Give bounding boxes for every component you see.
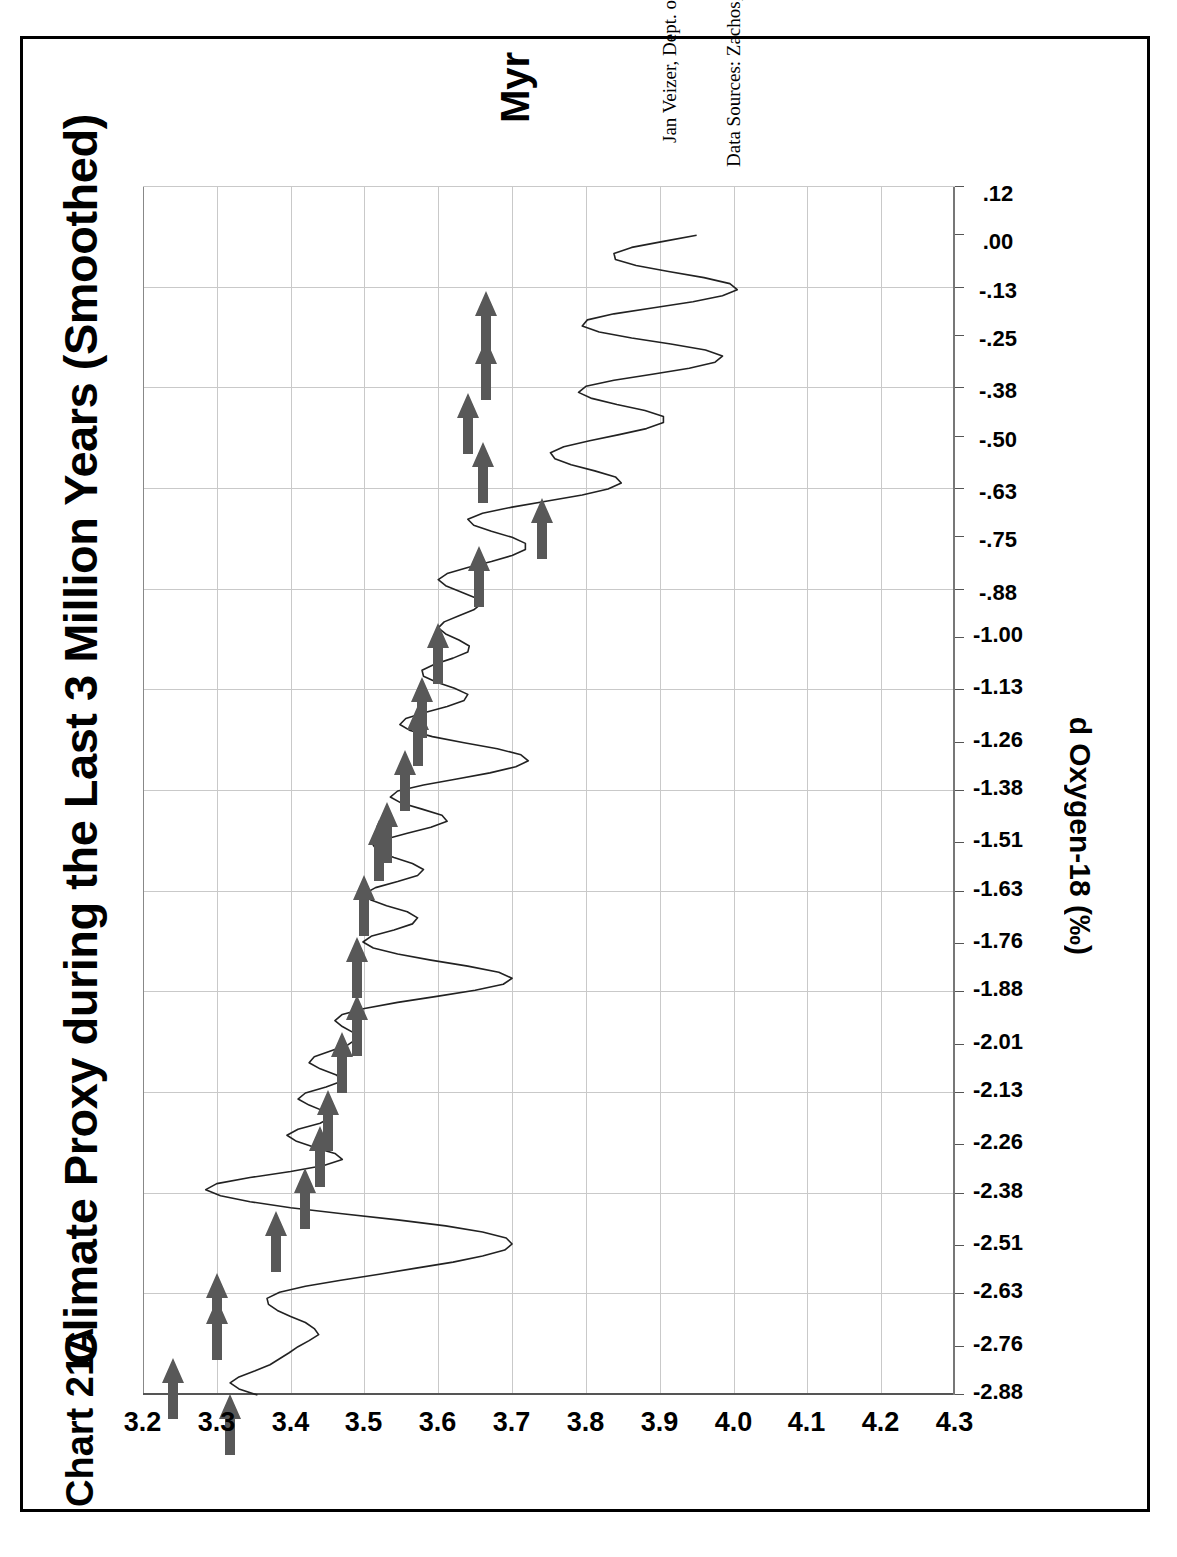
y-tick-label-7: 3.9 [640, 1407, 678, 1438]
y-tick-label-10: 4.2 [862, 1407, 900, 1438]
x-tick-mark-23 [955, 234, 964, 235]
y-tick-label-8: 4.0 [714, 1407, 752, 1438]
x-tick-mark-7 [955, 1044, 964, 1045]
x-tick-label-6: -2.13 [973, 1077, 1023, 1103]
glacial-maximum-arrow-icon [353, 874, 379, 936]
glacial-maximum-arrow-icon [206, 1272, 232, 1334]
chart-outer-frame: Chart 21A Climate Proxy during the Last … [20, 36, 1150, 1512]
plot-area [143, 187, 955, 1395]
y-tick-label-3: 3.5 [345, 1407, 383, 1438]
x-tick-label-13: -1.26 [973, 727, 1023, 753]
x-tick-mark-1 [955, 1346, 964, 1347]
x-tick-label-16: -.88 [979, 580, 1017, 606]
x-tick-label-8: -1.88 [973, 976, 1023, 1002]
x-tick-mark-8 [955, 991, 964, 992]
x-tick-mark-16 [955, 589, 964, 590]
x-tick-mark-0 [955, 1394, 964, 1395]
x-tick-label-3: -2.51 [973, 1230, 1023, 1256]
x-tick-label-10: -1.63 [973, 876, 1023, 902]
x-tick-mark-11 [955, 842, 964, 843]
glacial-maximum-arrow-icon [346, 936, 372, 998]
x-tick-label-23: .00 [983, 229, 1014, 255]
rotated-chart-canvas: Chart 21A Climate Proxy during the Last … [23, 39, 1147, 1515]
x-tick-mark-6 [955, 1092, 964, 1093]
x-tick-label-18: -.63 [979, 479, 1017, 505]
x-tick-mark-20 [955, 387, 964, 388]
y-tick-label-2: 3.4 [271, 1407, 309, 1438]
x-tick-label-24: .12 [983, 181, 1014, 207]
glacial-maximum-arrow-icon [531, 497, 557, 559]
y-tick-label-11: 4.3 [936, 1407, 974, 1438]
y-tick-label-9: 4.1 [788, 1407, 826, 1438]
x-tick-mark-15 [955, 637, 964, 638]
glacial-maximum-arrow-icon [162, 1357, 188, 1419]
x-tick-label-14: -1.13 [973, 674, 1023, 700]
x-tick-label-21: -.25 [979, 326, 1017, 352]
x-tick-label-1: -2.76 [973, 1331, 1023, 1357]
x-tick-label-4: -2.38 [973, 1178, 1023, 1204]
y-tick-label-4: 3.6 [419, 1407, 457, 1438]
glacial-maximum-arrow-icon [457, 392, 483, 454]
x-tick-label-9: -1.76 [973, 928, 1023, 954]
x-axis-title: Myr [493, 52, 538, 123]
x-tick-label-20: -.38 [979, 378, 1017, 404]
y-axis-title: d Oxygen-18 (‰) [1063, 717, 1097, 955]
x-tick-label-22: -.13 [979, 278, 1017, 304]
x-tick-mark-24 [955, 186, 964, 187]
x-tick-mark-13 [955, 742, 964, 743]
glacial-maximum-arrow-icon [468, 545, 494, 607]
y-tick-label-0: 3.2 [124, 1407, 162, 1438]
glacial-maximum-arrow-icon [346, 994, 372, 1056]
x-tick-mark-10 [955, 891, 964, 892]
x-tick-label-19: -.50 [979, 427, 1017, 453]
x-tick-label-2: -2.63 [973, 1278, 1023, 1304]
y-tick-label-6: 3.8 [567, 1407, 605, 1438]
glacial-maximum-arrow-icon [475, 290, 501, 352]
x-tick-label-12: -1.38 [973, 775, 1023, 801]
x-tick-label-17: -.75 [979, 527, 1017, 553]
glacial-maximum-arrow-icon [265, 1210, 291, 1272]
x-tick-mark-9 [955, 943, 964, 944]
source-line-2: Jan Veizer, Dept. of Earth Sciences, Uni… [659, 0, 681, 143]
x-tick-mark-17 [955, 536, 964, 537]
x-tick-label-7: -2.01 [973, 1029, 1023, 1055]
x-tick-label-11: -1.51 [973, 827, 1023, 853]
x-tick-label-5: -2.26 [973, 1129, 1023, 1155]
x-tick-mark-18 [955, 488, 964, 489]
x-tick-mark-3 [955, 1245, 964, 1246]
x-tick-mark-14 [955, 689, 964, 690]
x-tick-mark-2 [955, 1293, 964, 1294]
y-tick-label-5: 3.7 [493, 1407, 531, 1438]
y-tick-label-1: 3.3 [198, 1407, 236, 1438]
x-tick-label-15: -1.00 [973, 622, 1023, 648]
source-line-1: Data Sources: Zachos, J., et al. [April … [723, 0, 745, 167]
x-tick-mark-22 [955, 287, 964, 288]
x-tick-mark-12 [955, 790, 964, 791]
glacial-maximum-arrow-icon [411, 676, 437, 738]
x-tick-mark-19 [955, 436, 964, 437]
x-tick-mark-5 [955, 1144, 964, 1145]
x-tick-mark-4 [955, 1193, 964, 1194]
glacial-maximum-arrow-icon [317, 1089, 343, 1151]
chart-title: Climate Proxy during the Last 3 Million … [53, 114, 108, 1365]
x-tick-mark-21 [955, 335, 964, 336]
glacial-maximum-arrow-icon [427, 622, 453, 684]
x-tick-label-0: -2.88 [973, 1379, 1023, 1405]
